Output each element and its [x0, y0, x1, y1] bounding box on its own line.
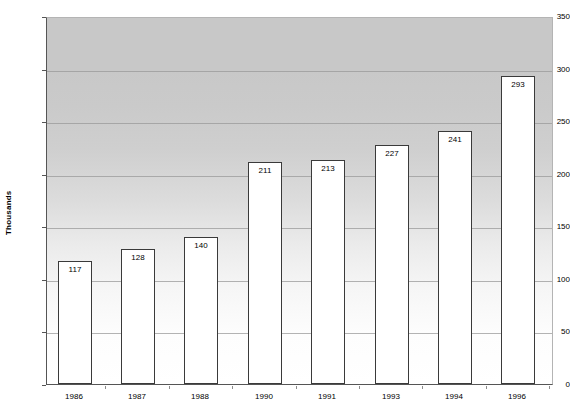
- x-axis-tick-mark: [232, 386, 233, 389]
- bar-value-label: 227: [376, 149, 408, 158]
- bar[interactable]: 293: [501, 76, 535, 384]
- gridline: [47, 228, 552, 229]
- gridline: [47, 176, 552, 177]
- bar[interactable]: 211: [248, 162, 282, 384]
- x-axis-tick-mark: [422, 386, 423, 389]
- gridline: [47, 71, 552, 72]
- bar[interactable]: 140: [184, 237, 218, 384]
- x-axis-tick-mark: [486, 386, 487, 389]
- bar[interactable]: 241: [438, 131, 472, 384]
- x-axis-tick-label: 1986: [44, 392, 104, 401]
- x-axis-tick-mark: [296, 386, 297, 389]
- x-axis-tick-label: 1993: [361, 392, 421, 401]
- x-axis-tick-label: 1994: [424, 392, 484, 401]
- bar-value-label: 128: [122, 253, 154, 262]
- bar-value-label: 213: [312, 164, 344, 173]
- bar[interactable]: 117: [58, 261, 92, 384]
- bar-chart: Thousands 050100150200250300350 11712814…: [0, 0, 570, 417]
- bar-value-label: 140: [185, 241, 217, 250]
- x-axis-tick-mark: [105, 386, 106, 389]
- x-axis-tick-mark: [359, 386, 360, 389]
- bar-value-label: 293: [502, 80, 534, 89]
- x-axis-tick-label: 1988: [170, 392, 230, 401]
- bar-value-label: 117: [59, 265, 91, 274]
- bar[interactable]: 128: [121, 249, 155, 384]
- bar-value-label: 241: [439, 135, 471, 144]
- gridline: [47, 123, 552, 124]
- y-axis-title: Thousands: [0, 168, 16, 258]
- bar[interactable]: 227: [375, 145, 409, 384]
- x-axis-tick-mark: [169, 386, 170, 389]
- x-axis-tick-label: 1987: [107, 392, 167, 401]
- x-axis-tick-label: 1990: [234, 392, 294, 401]
- bar[interactable]: 213: [311, 160, 345, 384]
- plot-area: 117128140211213227241293: [46, 17, 553, 385]
- x-axis-tick-mark: [549, 386, 550, 389]
- y-axis-tick-mark: [42, 385, 46, 386]
- x-axis-tick-label: 1991: [297, 392, 357, 401]
- x-axis-tick-label: 1996: [487, 392, 547, 401]
- bar-value-label: 211: [249, 166, 281, 175]
